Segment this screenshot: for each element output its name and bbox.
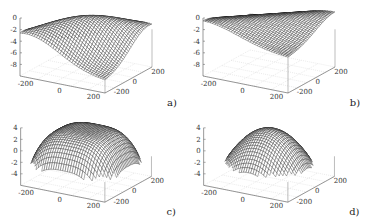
surface-mesh — [31, 122, 142, 180]
z-tick-label: -4 — [11, 170, 18, 178]
x-tick-label: 200 — [270, 93, 283, 101]
y-tick-label: 0 — [316, 78, 320, 86]
x-tick-label: 200 — [87, 93, 100, 101]
y-tick-label: 0 — [133, 78, 137, 86]
z-tick-label: 0 — [13, 147, 17, 155]
x-tick-label: 200 — [270, 202, 283, 210]
z-tick-label: -2 — [10, 26, 17, 34]
panel-label: a) — [167, 97, 177, 108]
z-tick-label: 2 — [13, 136, 17, 144]
y-tick-label: -200 — [297, 198, 313, 206]
surface-plot-b: 0-2-4-6-8-2000200-2000200b) — [183, 0, 366, 110]
z-tick-label: -4 — [193, 38, 200, 46]
base-grid — [203, 50, 335, 93]
panel-c: 420-2-4-2000200-2000200c) — [0, 110, 183, 220]
x-tick-label: -200 — [18, 80, 34, 88]
y-tick-label: 200 — [151, 68, 164, 76]
z-tick-label: 4 — [13, 124, 18, 132]
z-tick-label: -8 — [10, 61, 17, 69]
x-tick-label: 0 — [57, 87, 61, 95]
surface-plot-d: 420-2-4-2000200-2000200d) — [183, 110, 366, 220]
z-tick-label: -2 — [193, 26, 200, 34]
surface-mesh — [225, 128, 313, 178]
x-tick-label: 0 — [241, 196, 245, 204]
z-tick-label: -6 — [193, 49, 200, 57]
surface-mesh — [203, 11, 335, 57]
panel-label: b) — [350, 97, 360, 108]
z-tick-label: 4 — [196, 124, 201, 132]
z-tick-label: -8 — [193, 61, 200, 69]
x-tick-label: 0 — [240, 87, 244, 95]
z-tick-label: -2 — [11, 159, 18, 167]
panel-label: c) — [167, 206, 177, 217]
panel-b: 0-2-4-6-8-2000200-2000200b) — [183, 0, 366, 110]
y-tick-label: 200 — [334, 68, 347, 76]
x-tick-label: -200 — [18, 189, 34, 197]
z-tick-label: -4 — [194, 170, 201, 178]
y-tick-label: -200 — [114, 198, 130, 206]
y-tick-label: 0 — [132, 187, 136, 195]
z-tick-label: -2 — [194, 159, 201, 167]
z-tick-label: -4 — [10, 38, 17, 46]
x-tick-label: -200 — [201, 80, 217, 88]
z-tick-label: 2 — [196, 136, 200, 144]
x-tick-label: -200 — [201, 189, 217, 197]
x-tick-label: 0 — [58, 196, 62, 204]
x-tick-label: 200 — [87, 202, 100, 210]
surface-plot-a: 0-2-4-6-8-2000200-2000200a) — [0, 0, 183, 110]
y-tick-label: 200 — [334, 177, 347, 185]
z-tick-label: -6 — [10, 49, 17, 57]
y-tick-label: 200 — [151, 177, 164, 185]
surface-plot-c: 420-2-4-2000200-2000200c) — [0, 110, 183, 220]
panel-d: 420-2-4-2000200-2000200d) — [183, 110, 366, 220]
z-tick-label: 0 — [196, 14, 200, 22]
y-tick-label: -200 — [114, 88, 130, 96]
panel-a: 0-2-4-6-8-2000200-2000200a) — [0, 0, 183, 110]
panel-label: d) — [349, 206, 359, 217]
z-tick-label: 0 — [196, 147, 200, 155]
y-tick-label: -200 — [297, 88, 313, 96]
z-tick-label: 0 — [13, 14, 17, 22]
y-tick-label: 0 — [315, 187, 319, 195]
